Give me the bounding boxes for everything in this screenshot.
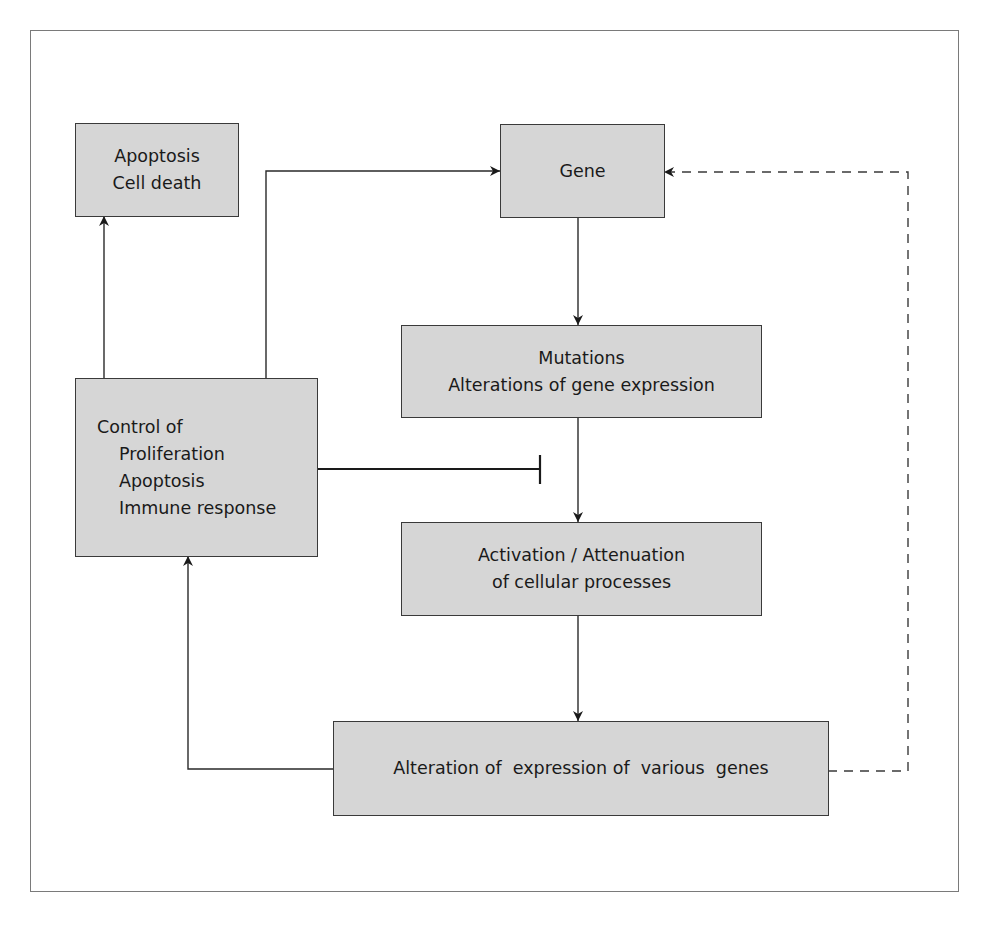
node-alteration: Alteration of expression of various gene… xyxy=(333,721,829,816)
node-control: Control of Proliferation Apoptosis Immun… xyxy=(75,378,318,557)
node-mutations: Mutations Alterations of gene expression xyxy=(401,325,762,418)
edge-alteration-to-control xyxy=(188,556,333,769)
node-apoptosis-line-1: Apoptosis xyxy=(114,143,200,170)
node-control-item-apoptosis: Apoptosis xyxy=(97,468,205,495)
node-mutations-line-1: Mutations xyxy=(538,345,624,372)
node-gene: Gene xyxy=(500,124,665,218)
node-activation-line-1: Activation / Attenuation xyxy=(478,542,685,569)
node-apoptosis: Apoptosis Cell death xyxy=(75,123,239,217)
edge-alteration-to-gene-dashed xyxy=(664,172,908,771)
node-control-item-proliferation: Proliferation xyxy=(97,441,225,468)
node-gene-label: Gene xyxy=(559,158,605,185)
node-alteration-label: Alteration of expression of various gene… xyxy=(393,755,768,782)
node-activation-line-2: of cellular processes xyxy=(492,569,671,596)
node-control-item-immune-response: Immune response xyxy=(97,495,276,522)
node-mutations-line-2: Alterations of gene expression xyxy=(448,372,715,399)
node-apoptosis-line-2: Cell death xyxy=(113,170,202,197)
node-activation: Activation / Attenuation of cellular pro… xyxy=(401,522,762,616)
node-control-title: Control of xyxy=(97,414,183,441)
